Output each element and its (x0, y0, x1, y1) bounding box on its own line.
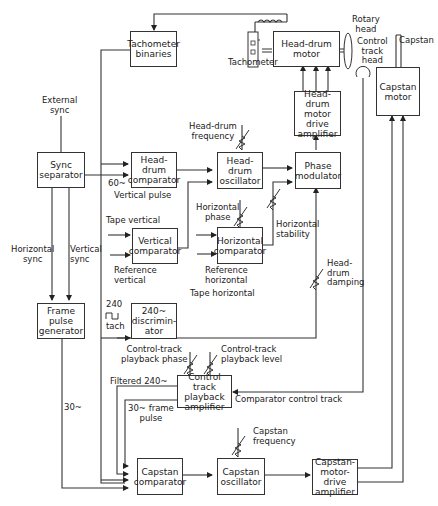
comparator-control-track-label: Comparator control track (235, 395, 342, 405)
capstan-label: Capstan (399, 36, 434, 46)
sync-separator-block: Sync separator (37, 152, 85, 188)
tape-horizontal-label: Tape horizontal (190, 289, 255, 299)
capstan-oscillator-block: Capstan oscillator (217, 458, 265, 495)
phase-modulator-block: Phase modulator (295, 152, 341, 189)
head-drum-comparator-block: Head- drum comparator (131, 152, 177, 188)
tape-vertical-label: Tape vertical (106, 216, 160, 226)
external-sync-label: External sync (42, 96, 77, 115)
tachometer-label: Tachometer (228, 58, 278, 68)
tach-label: tach (106, 322, 125, 332)
capstan-comparator-block: Capstan comparator (137, 458, 183, 495)
horizontal-comparator-block: Horizontal comparator (217, 227, 263, 264)
horizontal-stability-label: Horizontal stability (276, 220, 319, 239)
head-drum-oscillator-block: Head-drum oscillator (217, 152, 263, 189)
control-track-playback-phase-label: Control-track playback phase (121, 345, 188, 364)
reference-horizontal-label: Reference horizontal (205, 266, 248, 285)
head-drum-frequency-label: Head-drum frequency (189, 122, 237, 141)
vertical-pulse-label: Vertical pulse (114, 191, 171, 201)
tachometer-binaries-block: Tachometer binaries (130, 31, 177, 67)
filtered-240-label: Filtered 240~ (110, 377, 168, 387)
discriminator-block: 240~ discrimin- ator (131, 303, 177, 339)
capstan-motor-block: Capstan motor (376, 67, 420, 116)
head-drum-motor-block: Head-drum motor (273, 31, 340, 67)
frame-pulse-generator-block: Frame pulse generator (37, 303, 85, 339)
capstan-frequency-label: Capstan frequency (253, 427, 296, 446)
tach-240-label: 240 (106, 300, 122, 310)
head-drum-damping-label: Head- drum damping (327, 259, 364, 288)
rotary-head-label: Rotary head (352, 15, 380, 34)
thirty-hz-label: 30~ (64, 403, 82, 413)
sixty-hz-label: 60~ (108, 179, 126, 189)
reference-vertical-label: Reference vertical (114, 266, 157, 285)
vertical-comparator-block: Vertical comparator (132, 228, 178, 264)
horizontal-phase-label: Horizontal phase (196, 203, 239, 222)
head-drum-motor-drive-amplifier-block: Head-drum motor drive amplifier (294, 91, 341, 136)
vertical-sync-label: Vertical sync (70, 245, 102, 264)
control-track-head-label: Control track head (357, 37, 388, 66)
thirty-hz-frame-pulse-label: 30~ frame pulse (128, 404, 174, 423)
control-track-playback-amplifier-block: Control track playback amplifier (177, 375, 232, 408)
control-track-playback-level-label: Control-track playback level (221, 345, 282, 364)
horizontal-sync-label: Horizontal sync (11, 245, 54, 264)
capstan-motor-drive-amplifier-block: Capstan- motor- drive amplifier (312, 459, 358, 495)
